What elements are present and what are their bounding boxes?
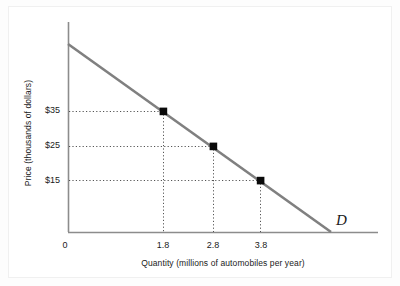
- demand-curve-figure: D Price (thousands of dollars) Quantity …: [0, 0, 400, 286]
- demand-curve-line: [68, 44, 331, 232]
- data-point-marker: [160, 108, 168, 116]
- y-tick-label-25: $25: [20, 140, 60, 150]
- data-point-marker: [210, 143, 218, 151]
- origin-label: 0: [45, 240, 85, 250]
- y-tick-label-35: $35: [20, 105, 60, 115]
- data-point-marker: [257, 177, 265, 185]
- x-tick-label-2-8: 2.8: [193, 240, 233, 250]
- demand-curve-label: D: [336, 212, 347, 229]
- x-tick-label-3-8: 3.8: [241, 240, 281, 250]
- x-axis-title: Quantity (millions of automobiles per ye…: [68, 258, 378, 268]
- x-tick-label-1-8: 1.8: [143, 240, 183, 250]
- y-axis-title: Price (thousands of dollars): [23, 58, 33, 208]
- y-tick-label-15: $15: [20, 175, 60, 185]
